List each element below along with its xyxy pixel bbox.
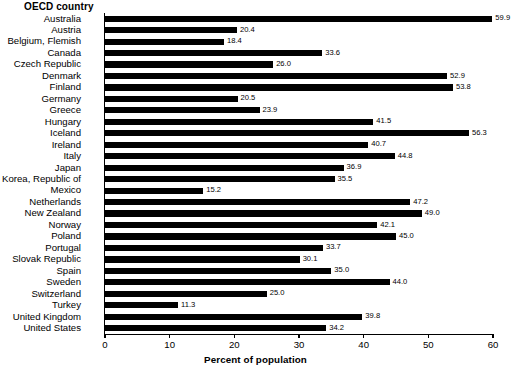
bar-row: Ireland40.7 — [105, 139, 493, 150]
bar-value-label: 59.9 — [492, 14, 510, 22]
bar-row: Greece23.9 — [105, 105, 493, 116]
category-label: Poland — [0, 231, 81, 241]
bar-row: Belgium, Flemish18.4 — [105, 36, 493, 47]
bar-value-label: 45.0 — [396, 232, 414, 240]
bar-value-label: 23.9 — [260, 106, 278, 114]
bar — [105, 325, 326, 331]
bar — [105, 39, 224, 45]
bar — [105, 210, 422, 216]
bar-value-label: 35.0 — [331, 266, 349, 274]
bar — [105, 16, 492, 22]
bar-row: Australia59.9 — [105, 13, 493, 24]
x-axis-tick — [298, 334, 299, 338]
x-axis-tick — [363, 334, 364, 338]
bar — [105, 73, 447, 79]
category-label: Germany — [0, 94, 81, 104]
bar-value-label: 44.8 — [395, 152, 413, 160]
bar-row: Austria20.4 — [105, 24, 493, 35]
category-label: Iceland — [0, 128, 81, 138]
category-label: Hungary — [0, 117, 81, 127]
category-label: Belgium, Flemish — [0, 36, 81, 46]
bar-value-label: 15.2 — [203, 186, 221, 194]
bar — [105, 188, 203, 194]
bar — [105, 27, 237, 33]
bar-row: Italy44.8 — [105, 151, 493, 162]
category-label: Switzerland — [0, 289, 81, 299]
category-label: Finland — [0, 82, 81, 92]
bar-row: Portugal33.7 — [105, 242, 493, 253]
bar-row: Czech Republic26.0 — [105, 59, 493, 70]
bar-row: Slovak Republic30.1 — [105, 254, 493, 265]
x-axis-tick-label: 30 — [294, 339, 305, 350]
plot-area: Australia59.9Austria20.4Belgium, Flemish… — [105, 13, 493, 334]
x-axis-tick-label: 40 — [358, 339, 369, 350]
bar — [105, 222, 377, 228]
bar-value-label: 18.4 — [224, 37, 242, 45]
bar — [105, 291, 267, 297]
category-label: Turkey — [0, 300, 81, 310]
bar — [105, 84, 453, 90]
bar-row: Mexico15.2 — [105, 185, 493, 196]
x-axis-tick-label: 0 — [102, 339, 107, 350]
x-axis-tick — [104, 334, 105, 338]
bar-row: Sweden44.0 — [105, 277, 493, 288]
bar — [105, 130, 469, 136]
x-axis-tick-label: 60 — [488, 339, 499, 350]
bar-value-label: 49.0 — [422, 209, 440, 217]
bar-row: New Zealand49.0 — [105, 208, 493, 219]
bar — [105, 176, 335, 182]
bar-row: Spain35.0 — [105, 265, 493, 276]
bar — [105, 165, 344, 171]
bar — [105, 50, 322, 56]
bar-value-label: 33.6 — [322, 49, 340, 57]
bar — [105, 153, 395, 159]
bar-row: United States34.2 — [105, 323, 493, 334]
bar-row: Canada33.6 — [105, 47, 493, 58]
bar-row: Finland53.8 — [105, 82, 493, 93]
bar-value-label: 11.3 — [178, 301, 195, 309]
x-axis-tick — [169, 334, 170, 338]
category-label: Netherlands — [0, 197, 81, 207]
category-label: Mexico — [0, 185, 81, 195]
bar-row: Denmark52.9 — [105, 70, 493, 81]
bar-value-label: 44.0 — [390, 278, 408, 286]
bar-row: Iceland56.3 — [105, 128, 493, 139]
category-label: Portugal — [0, 243, 81, 253]
bar — [105, 268, 331, 274]
bar-row: Hungary41.5 — [105, 116, 493, 127]
bar-row: Turkey11.3 — [105, 300, 493, 311]
category-label: Ireland — [0, 140, 81, 150]
bar-value-label: 26.0 — [273, 60, 291, 68]
bar-value-label: 35.5 — [335, 175, 353, 183]
bar — [105, 96, 238, 102]
bar-row: United Kingdom39.8 — [105, 311, 493, 322]
x-axis-tick — [492, 334, 493, 338]
bar-row: Japan36.9 — [105, 162, 493, 173]
bar-row: Norway42.1 — [105, 219, 493, 230]
bar-value-label: 33.7 — [323, 243, 341, 251]
x-axis-tick — [234, 334, 235, 338]
category-label: Sweden — [0, 277, 81, 287]
bar-row: Germany20.5 — [105, 93, 493, 104]
bar — [105, 279, 390, 285]
bar-value-label: 42.1 — [377, 221, 395, 229]
category-label: United Kingdom — [0, 312, 81, 322]
bar-value-label: 20.4 — [237, 26, 255, 34]
x-axis-tick-label: 20 — [229, 339, 240, 350]
category-label: Austria — [0, 25, 81, 35]
bar-chart: OECD country Australia59.9Austria20.4Bel… — [0, 0, 511, 370]
bar — [105, 119, 373, 125]
category-label: New Zealand — [0, 208, 81, 218]
category-label: Denmark — [0, 71, 81, 81]
bar-value-label: 40.7 — [368, 140, 386, 148]
x-axis-tick-label: 50 — [423, 339, 434, 350]
bar — [105, 107, 260, 113]
category-label: Norway — [0, 220, 81, 230]
bar-value-label: 53.8 — [453, 83, 471, 91]
bar — [105, 233, 396, 239]
bar — [105, 61, 273, 67]
bar-row: Korea, Republic of35.5 — [105, 174, 493, 185]
category-label: Czech Republic — [0, 59, 81, 69]
bar-row: Switzerland25.0 — [105, 288, 493, 299]
category-label: United States — [0, 323, 81, 333]
